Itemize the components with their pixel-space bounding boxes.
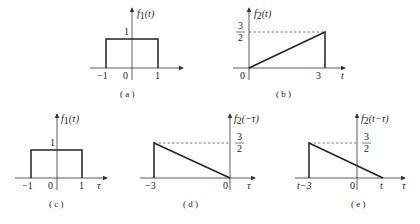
shifted-ramp xyxy=(309,143,383,178)
x-axis-var: τ xyxy=(97,180,101,191)
caption-a: ( a ) xyxy=(120,89,135,99)
y-axis-label: f2(t−τ) xyxy=(361,113,389,126)
caption-c: ( c ) xyxy=(49,199,64,209)
x-tick-t-minus-3: t−3 xyxy=(297,180,312,191)
x-tick-t: t xyxy=(380,180,383,191)
y-frac-num: 3 xyxy=(238,20,243,31)
y-tick-1: 1 xyxy=(124,26,129,37)
ramp xyxy=(249,32,325,68)
y-frac-num: 3 xyxy=(237,131,242,142)
x-tick-0: 0 xyxy=(240,70,245,81)
panel-e: f2(t−τ) 3 2 t−3 0 t τ ( e ) xyxy=(295,113,406,209)
x-tick-3: 3 xyxy=(316,70,321,81)
figure-canvas: f1(t) 1 −1 0 1 ( a ) f2(t) 3 2 0 3 t ( b… xyxy=(0,0,420,224)
x-tick-neg3: −3 xyxy=(145,180,156,191)
x-tick-0: 0 xyxy=(350,180,355,191)
x-tick-neg1: −1 xyxy=(97,70,108,81)
x-axis-var: τ xyxy=(247,180,251,191)
y-frac-num: 3 xyxy=(364,131,369,142)
caption-d: ( d ) xyxy=(183,199,198,209)
y-axis-label: f2(−τ) xyxy=(234,113,259,126)
x-axis-var: τ xyxy=(402,180,406,191)
y-axis-label: f1(t) xyxy=(137,8,155,21)
x-tick-neg1: −1 xyxy=(22,180,33,191)
y-frac-den: 2 xyxy=(238,32,243,43)
reflected-ramp xyxy=(154,143,230,178)
rect-pulse xyxy=(31,150,82,178)
panel-a: f1(t) 1 −1 0 1 ( a ) xyxy=(90,8,183,99)
y-axis-label: f2(t) xyxy=(254,8,272,21)
x-tick-1: 1 xyxy=(79,180,84,191)
caption-b: ( b ) xyxy=(276,89,291,99)
y-axis-label: f1(τ) xyxy=(61,113,80,126)
x-tick-0: 0 xyxy=(48,180,53,191)
panel-c: f1(τ) 1 −1 0 1 τ ( c ) xyxy=(15,113,107,209)
y-frac-den: 2 xyxy=(237,143,242,154)
panel-d: f2(−τ) 3 2 −3 0 τ ( d ) xyxy=(140,113,259,209)
x-tick-0: 0 xyxy=(123,70,128,81)
y-frac-den: 2 xyxy=(364,143,369,154)
caption-e: ( e ) xyxy=(351,199,366,209)
x-axis-var: t xyxy=(341,70,344,81)
y-tick-1: 1 xyxy=(50,137,55,148)
panel-b: f2(t) 3 2 0 3 t ( b ) xyxy=(233,8,345,99)
x-tick-1: 1 xyxy=(155,70,160,81)
x-tick-0: 0 xyxy=(223,180,228,191)
